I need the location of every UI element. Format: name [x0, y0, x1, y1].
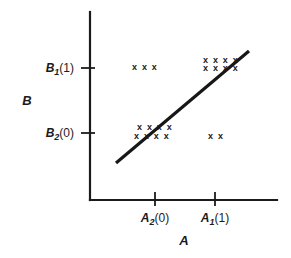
marker-cluster-a2b1-row1: x x x	[132, 62, 158, 72]
y-tick-label-b1: B1(1)	[46, 61, 74, 77]
marker-cluster-a1b2-row1: x x	[208, 131, 224, 141]
y-axis-title: B	[22, 93, 31, 108]
x-tick-label-a1: A1(1)	[200, 211, 229, 227]
x-tick-label-a2: A2(0)	[140, 211, 169, 227]
y-tick-label-b2: B2(0)	[46, 126, 74, 142]
plot-canvas: B1(1) B2(0) A2(0) A1(1) B A x x x x x x …	[0, 0, 291, 258]
x-axis-title: A	[178, 233, 188, 248]
scatter-plot-figure: B1(1) B2(0) A2(0) A1(1) B A x x x x x x …	[0, 0, 291, 258]
